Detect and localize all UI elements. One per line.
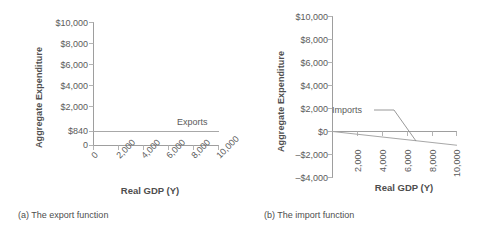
x-axis-title: Real GDP (Y) bbox=[339, 182, 469, 193]
x-tick-label: 8,000 bbox=[429, 149, 438, 172]
x-tick-label: 10,000 bbox=[453, 149, 462, 177]
panel-caption-a: (a) The export function bbox=[18, 210, 108, 220]
x-tick-label: 2,000 bbox=[354, 149, 363, 172]
series-label-imports: Imports bbox=[332, 105, 362, 115]
x-tick-label: 6,000 bbox=[404, 149, 413, 172]
panel-import-function: Aggregate Expenditure $10,000 $8,000 $6,… bbox=[244, 0, 488, 234]
panel-caption-b: (b) The import function bbox=[264, 210, 354, 220]
plot-b bbox=[244, 0, 488, 234]
series-label-exports: Exports bbox=[177, 117, 208, 127]
x-axis-title: Real GDP (Y) bbox=[80, 185, 220, 196]
imports-line bbox=[333, 132, 458, 146]
x-tick-label: 4,000 bbox=[379, 149, 388, 172]
panel-export-function: Aggregate Expenditure $10,000 $8,000 $6,… bbox=[0, 0, 244, 234]
